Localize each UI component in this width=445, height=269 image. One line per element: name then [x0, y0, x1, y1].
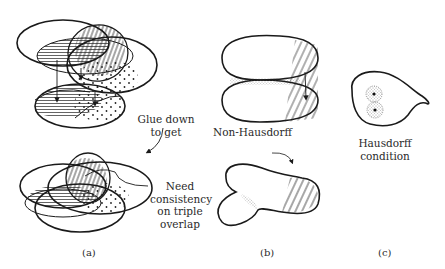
non-hausdorff-label: Non-Hausdorff [213, 126, 292, 139]
caption-c: (c) [378, 247, 391, 258]
need-line4: overlap [150, 218, 210, 231]
need-line1: Need [150, 180, 210, 193]
glue-down-label: Glue down to get [137, 113, 195, 138]
glue-down-line1: Glue down [137, 113, 195, 126]
non-hausdorff-arrow [272, 153, 292, 162]
panel-a-bottom-glued [20, 153, 152, 232]
hausdorff-condition-label: Hausdorff condition [355, 137, 415, 162]
hausdorff-line2: condition [355, 150, 415, 163]
caption-b: (b) [260, 247, 274, 258]
hausdorff-line1: Hausdorff [355, 137, 415, 150]
need-line3: on triple [150, 205, 210, 218]
need-consistency-label: Need consistency on triple overlap [150, 180, 210, 230]
panel-c-teardrop [352, 72, 429, 126]
panel-b-bottom-blob [218, 164, 319, 225]
panel-b-top-blobs [222, 36, 318, 122]
need-line2: consistency [150, 193, 210, 206]
caption-a: (a) [82, 247, 96, 258]
glue-down-line2: to get [137, 126, 195, 139]
panel-a-top-charts [17, 20, 157, 128]
figure-canvas: Glue down to get Need consistency on tri… [0, 0, 445, 269]
